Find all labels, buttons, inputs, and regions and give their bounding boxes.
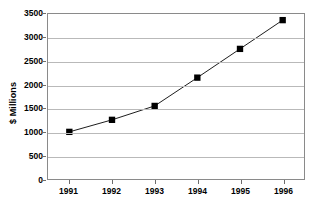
gridline — [48, 157, 304, 158]
gridline — [48, 62, 304, 63]
y-tick-label: 2000 — [3, 80, 43, 90]
gridline — [48, 133, 304, 134]
x-tick-mark — [198, 180, 199, 184]
data-point-marker — [109, 117, 115, 123]
x-tick-mark — [155, 180, 156, 184]
x-tick-mark — [284, 180, 285, 184]
y-tick-label: 3000 — [3, 32, 43, 42]
x-tick-label: 1996 — [259, 186, 309, 196]
y-tick-label: 500 — [3, 151, 43, 161]
y-tick-label: 0 — [3, 175, 43, 185]
y-tick-mark — [42, 156, 46, 157]
y-tick-mark — [42, 180, 46, 181]
y-tick-mark — [42, 85, 46, 86]
y-tick-mark — [42, 13, 46, 14]
line-chart: $ Millions 0500100015002000250030003500 … — [0, 0, 321, 206]
y-tick-mark — [42, 37, 46, 38]
y-tick-mark — [42, 132, 46, 133]
y-tick-label: 1500 — [3, 103, 43, 113]
y-tick-label: 2500 — [3, 56, 43, 66]
data-point-marker — [279, 17, 285, 23]
gridline — [48, 38, 304, 39]
gridline — [48, 109, 304, 110]
x-tick-mark — [241, 180, 242, 184]
gridline — [48, 86, 304, 87]
data-point-marker — [194, 74, 200, 80]
y-tick-label: 3500 — [3, 8, 43, 18]
data-point-marker — [237, 46, 243, 52]
y-tick-mark — [42, 61, 46, 62]
x-axis-ticks: 199119921993199419951996 — [47, 180, 305, 206]
y-tick-label: 1000 — [3, 127, 43, 137]
data-point-marker — [151, 103, 157, 109]
x-tick-mark — [69, 180, 70, 184]
x-tick-mark — [112, 180, 113, 184]
plot-area — [47, 13, 305, 180]
y-axis-ticks: 0500100015002000250030003500 — [0, 13, 43, 180]
y-tick-mark — [42, 108, 46, 109]
